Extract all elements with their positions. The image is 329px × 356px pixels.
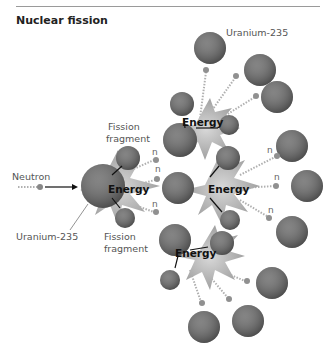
arrow-head (72, 184, 78, 190)
svg-text:n: n (152, 147, 158, 157)
svg-text:n: n (152, 199, 158, 209)
neutron-label: Neutron (12, 171, 50, 182)
energy-label-2: Energy (182, 116, 223, 128)
fission-fragment-label-top-1: Fission (108, 121, 140, 132)
leader-line (70, 204, 88, 230)
svg-text:n: n (268, 205, 274, 215)
svg-text:n: n (274, 172, 280, 182)
uranium-label-top: Uranium-235 (226, 27, 288, 38)
svg-text:n: n (155, 164, 161, 174)
energy-label-3: Energy (208, 183, 249, 195)
fission-diagram: Neutron Uranium-235 Uranium-235 Fission … (0, 0, 329, 356)
uranium-label-left: Uranium-235 (16, 231, 78, 242)
fission-fragment-label-bottom-2: fragment (104, 243, 148, 254)
energy-label-4: Energy (175, 247, 216, 259)
neutron-particle (37, 184, 43, 190)
svg-text:n: n (267, 145, 273, 155)
energy-label-1: Energy (108, 183, 149, 195)
fission-fragment-label-top-2: fragment (106, 133, 150, 144)
fission-fragment-label-bottom-1: Fission (104, 231, 136, 242)
